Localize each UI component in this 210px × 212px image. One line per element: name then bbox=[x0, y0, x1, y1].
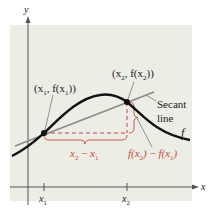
point-p2 bbox=[124, 99, 130, 105]
secant-label-line2: line bbox=[157, 112, 174, 124]
secant-line-diagram: y x x1 x2 (x1, f(x1)) (x2, f(x2)) Secant… bbox=[0, 0, 210, 212]
secant-label-line1: Secant bbox=[157, 98, 186, 110]
point-p1 bbox=[41, 130, 47, 136]
y-axis-label: y bbox=[23, 4, 29, 15]
x-axis-label: x bbox=[200, 181, 206, 192]
